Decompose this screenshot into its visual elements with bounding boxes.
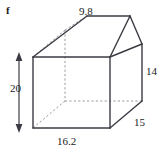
hidden-edges-group (33, 16, 142, 128)
figure-part-label: f (6, 5, 10, 16)
edge-roof-right-depth (130, 16, 142, 44)
geometry-figure: f 9.8 14 15 20 16.2 (0, 0, 166, 153)
edge-roof-slope-left-front (33, 16, 87, 57)
dimension-label-top-slant: 9.8 (79, 6, 93, 17)
dimension-label-total-height: 20 (10, 83, 21, 94)
hidden-edge-bottom-left-diagonal (33, 101, 65, 128)
prism-drawing (0, 0, 166, 153)
dimension-label-right-height: 14 (146, 66, 157, 77)
height-arrow-head-bottom (16, 124, 23, 133)
dimension-label-base-width: 16.2 (57, 136, 76, 147)
edge-roof-slope-right (110, 16, 130, 57)
height-arrow-head-top (16, 52, 23, 61)
dimension-label-depth: 15 (134, 117, 145, 128)
visible-edges-group (33, 16, 142, 128)
